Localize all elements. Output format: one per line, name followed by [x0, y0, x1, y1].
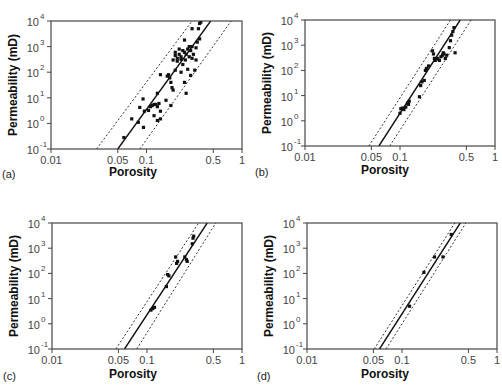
- y-tick-label: 10: [28, 319, 40, 331]
- data-point: [172, 88, 175, 91]
- x-axis-title: Porosity: [361, 367, 409, 381]
- y-tick-exponent: -1: [41, 340, 49, 349]
- chart-canvas: 0.010.050.10.5110-1100101102103104Porosi…: [0, 0, 502, 385]
- data-point: [138, 106, 141, 109]
- y-tick-exponent: 2: [296, 264, 301, 273]
- x-axis-title: Porosity: [109, 367, 157, 381]
- data-point: [444, 57, 447, 60]
- data-point: [130, 117, 133, 120]
- data-point: [147, 109, 150, 112]
- x-tick-label: 0.5: [461, 354, 476, 366]
- y-tick-label: 10: [283, 268, 295, 280]
- data-point: [427, 64, 430, 67]
- y-tick-label: 10: [283, 294, 295, 306]
- data-point: [172, 58, 175, 61]
- y-tick-label: 10: [281, 91, 293, 103]
- data-point: [432, 52, 435, 55]
- panel-c: 0.010.050.10.5110-1100101102103104Porosi…: [3, 214, 245, 382]
- data-point: [164, 99, 167, 102]
- y-tick-label: 10: [283, 218, 295, 230]
- y-tick-exponent: 2: [41, 264, 46, 273]
- y-tick-label: 10: [27, 144, 39, 156]
- x-tick-label: 1: [239, 354, 245, 366]
- x-tick-label: 1: [494, 354, 500, 366]
- regression-line: [380, 223, 461, 349]
- confidence-bound-line: [386, 223, 466, 349]
- data-point: [398, 112, 401, 115]
- data-point: [169, 81, 172, 84]
- y-tick-label: 10: [283, 344, 295, 356]
- y-tick-exponent: 1: [41, 290, 46, 299]
- x-tick-label: 0.1: [139, 354, 154, 366]
- x-tick-label: 0.01: [40, 154, 61, 166]
- y-tick-exponent: 2: [40, 63, 45, 72]
- data-point: [156, 119, 159, 122]
- data-point: [198, 37, 201, 40]
- data-point: [408, 305, 411, 308]
- data-point: [190, 57, 193, 60]
- x-tick-label: 0.05: [363, 354, 384, 366]
- data-point: [450, 34, 453, 37]
- confidence-bound-line: [390, 20, 471, 146]
- panel-label: (c): [3, 370, 16, 382]
- y-tick-label: 10: [28, 344, 40, 356]
- panel-d: 0.010.050.10.5110-1100101102103104Porosi…: [257, 214, 500, 382]
- x-tick-label: 0.1: [394, 354, 409, 366]
- x-axis-title: Porosity: [361, 163, 409, 177]
- data-point: [448, 46, 451, 49]
- y-tick-label: 10: [281, 65, 293, 77]
- data-point: [169, 104, 172, 107]
- regression-line: [379, 20, 460, 146]
- y-tick-exponent: 0: [40, 114, 45, 123]
- data-point: [165, 285, 168, 288]
- data-point: [192, 53, 195, 56]
- y-tick-label: 10: [281, 141, 293, 153]
- data-point: [190, 45, 193, 48]
- y-tick-exponent: -1: [40, 140, 48, 149]
- data-point: [137, 121, 140, 124]
- data-point: [174, 69, 177, 72]
- data-point: [194, 46, 197, 49]
- plot-frame: [307, 223, 497, 349]
- confidence-bound-line: [97, 21, 193, 149]
- data-point: [190, 27, 193, 30]
- data-point: [452, 26, 455, 29]
- data-point: [433, 255, 436, 258]
- y-tick-exponent: 4: [40, 12, 45, 21]
- y-tick-label: 10: [27, 42, 39, 54]
- data-point: [196, 40, 199, 43]
- data-point: [438, 59, 441, 62]
- y-tick-exponent: 0: [41, 315, 46, 324]
- y-tick-label: 10: [281, 116, 293, 128]
- data-point: [450, 233, 453, 236]
- panel-a: 0.010.050.10.5110-1100101102103104Porosi…: [2, 12, 245, 180]
- data-point: [142, 126, 145, 129]
- data-point: [174, 54, 177, 57]
- data-point: [419, 84, 422, 87]
- data-point: [167, 73, 170, 76]
- confidence-bound-line: [137, 223, 216, 349]
- data-point: [141, 97, 144, 100]
- x-tick-label: 0.01: [294, 151, 315, 163]
- data-point: [194, 58, 197, 61]
- plot-frame: [52, 223, 242, 349]
- x-tick-label: 1: [239, 154, 245, 166]
- data-point: [143, 110, 146, 113]
- y-tick-exponent: -1: [296, 340, 304, 349]
- data-point: [168, 76, 171, 79]
- data-point: [193, 69, 196, 72]
- data-point: [189, 49, 192, 52]
- y-tick-label: 10: [281, 40, 293, 52]
- y-tick-label: 10: [27, 16, 39, 28]
- y-tick-exponent: 2: [294, 61, 299, 70]
- data-point: [441, 255, 444, 258]
- data-point: [199, 21, 202, 24]
- y-tick-exponent: 1: [294, 87, 299, 96]
- data-point: [184, 58, 187, 61]
- panel-label: (a): [2, 168, 15, 180]
- data-point: [152, 114, 155, 117]
- regression-line: [118, 21, 211, 149]
- data-point: [174, 255, 177, 258]
- x-tick-label: 0.1: [392, 151, 407, 163]
- y-tick-label: 10: [27, 93, 39, 105]
